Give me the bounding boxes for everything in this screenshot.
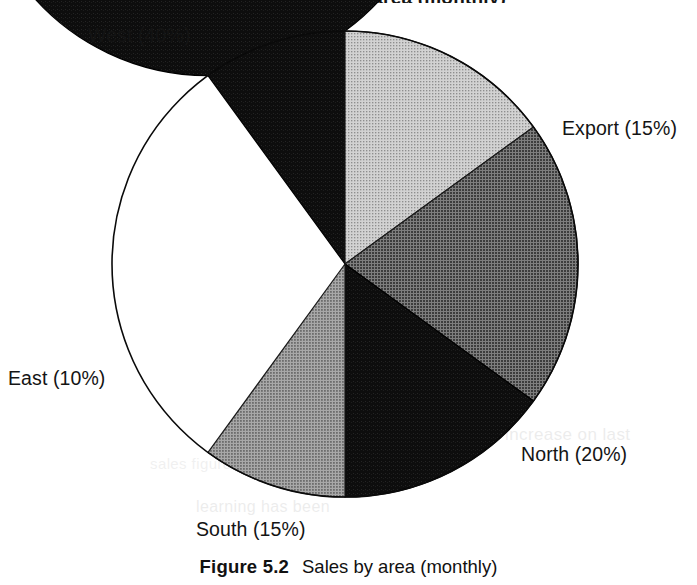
figure-caption-text: Sales by area (monthly) bbox=[302, 556, 497, 577]
pie-label-north: North (20%) bbox=[521, 443, 627, 466]
pie-chart bbox=[0, 0, 697, 585]
pie-label-west: West (40%) bbox=[88, 24, 191, 47]
pie-chart-svg bbox=[0, 0, 697, 585]
pie-label-export: Export (15%) bbox=[562, 117, 677, 140]
pie-slices bbox=[0, 0, 578, 497]
figure-caption-label: Figure 5.2 bbox=[200, 556, 289, 577]
pie-label-east: East (10%) bbox=[8, 367, 105, 390]
figure-caption: Figure 5.2Sales by area (monthly) bbox=[0, 556, 697, 578]
pie-label-south: South (15%) bbox=[196, 518, 306, 541]
pie-slice-east[interactable] bbox=[208, 264, 345, 497]
